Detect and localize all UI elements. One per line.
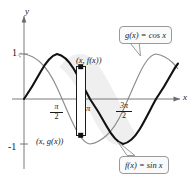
y-tick-label-negative-one: -1 [8, 142, 16, 152]
x-axis-arrow [174, 97, 181, 102]
point-upper-label: (x, f(x)) [76, 56, 101, 65]
x-tick-label-pi: π [86, 104, 90, 113]
x-axis-label: x [183, 93, 187, 102]
three-pi-halves-denominator: 2 [116, 112, 132, 120]
half-pi-denominator: 2 [50, 113, 63, 121]
half-pi-numerator: π [50, 103, 63, 111]
shade-band [59, 54, 136, 145]
y-axis-label: y [25, 7, 29, 16]
three-pi-halves-numerator: 3π [116, 102, 132, 110]
representative-rectangle [77, 67, 86, 136]
callout-cosine-label: g(x) = cos x [119, 26, 172, 44]
y-tick-label-one: 1 [12, 48, 17, 58]
x-tick-label-half-pi: π 2 [50, 103, 63, 122]
y-axis-arrow [22, 16, 27, 23]
x-tick-label-three-pi-halves: 3π 2 [116, 102, 132, 121]
callout-sine-label: f(x) = sin x [119, 156, 169, 174]
trig-area-figure: y x 1 -1 π 2 π 3π 2 (x, f(x)) (x, g(x)) … [0, 0, 196, 181]
point-lower-marker [78, 133, 83, 138]
point-lower-label: (x, g(x)) [36, 137, 63, 146]
